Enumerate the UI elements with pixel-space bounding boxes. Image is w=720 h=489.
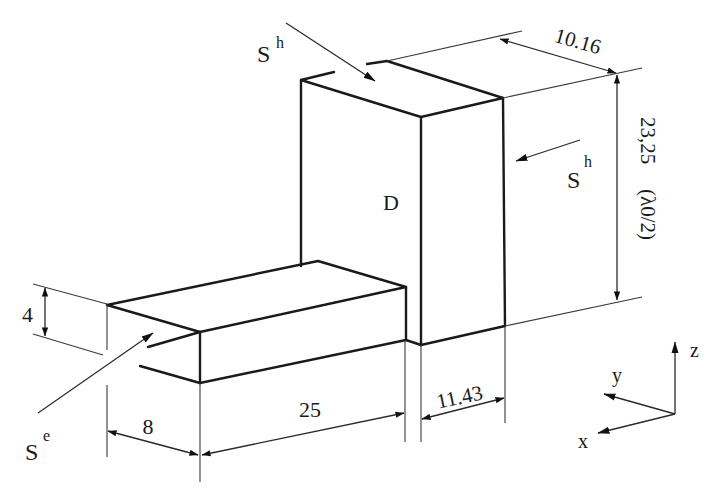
dimension-depth-top: 10.16: [387, 23, 642, 98]
dimension-height-main: 23,25 (λ0/2): [505, 75, 660, 326]
port-feed-symbol: S: [25, 439, 38, 465]
dimension-feed-length-label: 25: [299, 397, 321, 422]
port-feed: S e: [25, 333, 153, 465]
dimension-depth-top-label: 10.16: [552, 23, 604, 59]
port-side-superscript: h: [584, 153, 592, 170]
axes-triad: z y x: [578, 339, 699, 452]
port-feed-superscript: e: [43, 427, 50, 444]
axis-x-label: x: [578, 430, 588, 452]
dimension-height-note: (λ0/2): [636, 189, 660, 240]
dimension-height-main-label: 23,25: [636, 117, 660, 164]
dimension-feed-height-label: 4: [22, 302, 33, 327]
feed-waveguide: [107, 261, 406, 383]
dimension-main-width-label: 11.43: [434, 381, 484, 414]
dimension-feed-height: 4: [22, 284, 107, 355]
dielectric-label: D: [383, 190, 399, 215]
port-top-superscript: h: [276, 34, 284, 51]
port-side-symbol: S: [567, 167, 580, 193]
axis-y-label: y: [612, 364, 622, 387]
diagram-canvas: 10.16 23,25 (λ0/2) 4 8 25 11.43: [0, 0, 720, 489]
port-top: S h: [257, 23, 375, 81]
port-side: S h: [516, 140, 592, 193]
port-top-symbol: S: [257, 41, 270, 67]
axis-z-label: z: [690, 339, 699, 361]
dimension-feed-offset-label: 8: [143, 414, 154, 439]
dimension-bottom: 8 25 11.43: [107, 326, 505, 482]
